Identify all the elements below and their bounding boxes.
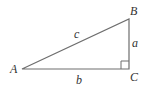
vertex-label-b: B (130, 4, 138, 18)
right-triangle-diagram: A B C a b c (0, 0, 146, 86)
vertex-label-c: C (130, 70, 139, 84)
side-label-b: b (76, 73, 82, 86)
vertex-label-a: A (9, 62, 18, 76)
side-label-c: c (74, 27, 80, 41)
right-angle-marker (121, 61, 129, 69)
side-label-a: a (132, 36, 138, 50)
